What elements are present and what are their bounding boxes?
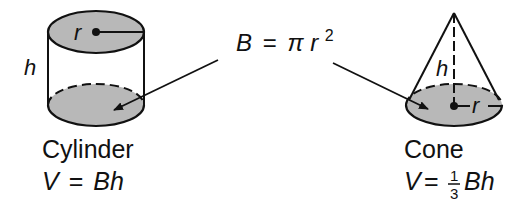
- cone-formula-bh: Bh: [464, 167, 495, 195]
- cone-formula-eq: =: [424, 167, 439, 195]
- cone-volume-formula: V = 1 3 Bh: [404, 167, 495, 202]
- cylinder-height-label: h: [24, 55, 36, 80]
- arrow-to-cylinder-base: [114, 60, 218, 110]
- arrow-to-cone-base: [333, 63, 428, 109]
- cone-height-label: h: [436, 56, 448, 81]
- cone-frac-den: 3: [450, 185, 458, 202]
- cone-formula-v: V: [404, 167, 423, 195]
- cylinder-name: Cylinder: [42, 135, 134, 163]
- formula-b: B: [236, 29, 252, 56]
- cylinder-volume-formula: V = Bh: [42, 167, 124, 195]
- formula-eq: =: [263, 29, 277, 56]
- cone-frac-num: 1: [450, 167, 458, 184]
- formula-exp: 2: [325, 27, 334, 44]
- base-area-formula: B = π r 2: [236, 27, 334, 56]
- formula-pi: π: [287, 29, 304, 56]
- svg-text:B = π r: B = π r 2: [236, 27, 334, 56]
- cylinder-formula-eq: =: [69, 167, 84, 195]
- cone-figure: h r: [406, 13, 502, 126]
- cone-name: Cone: [404, 135, 464, 163]
- cylinder-formula-bh: Bh: [93, 167, 124, 195]
- volume-diagram: r h h r B = π r 2 Cylinder V = Bh Cone: [0, 0, 527, 203]
- formula-r: r: [310, 29, 319, 56]
- cylinder-formula-v: V: [42, 167, 61, 195]
- cylinder-figure: r h: [24, 11, 144, 126]
